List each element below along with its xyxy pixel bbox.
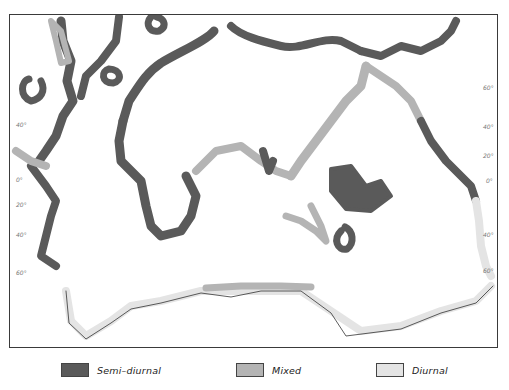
tide-map (10, 15, 498, 348)
legend-item-mixed: Mixed (236, 362, 301, 378)
coast-antarctica (66, 286, 491, 336)
left-axis-label: 60° (16, 270, 27, 276)
coast-australia (286, 206, 326, 241)
right-axis-label: 60° (483, 85, 494, 91)
new-zealand (337, 227, 352, 249)
right-axis-label: 40° (483, 124, 494, 130)
mixed-swatch (236, 363, 264, 377)
coast-east-asia (291, 66, 366, 176)
legend-label: Semi–diurnal (97, 365, 161, 376)
legend-label: Mixed (272, 365, 301, 376)
coast-south-america-east (31, 166, 56, 266)
left-axis-label: 40° (16, 122, 27, 128)
coast-siberia (361, 21, 456, 56)
antarctica-mixed (206, 286, 311, 288)
right-axis-label: 20° (483, 153, 494, 159)
left-axis-label: 0° (16, 177, 23, 183)
coast-europe-north (123, 31, 214, 121)
coast-america-west (421, 121, 476, 201)
coast-pacific-north (366, 66, 421, 121)
legend: Semi–diurnal Mixed Diurnal (0, 362, 509, 380)
india-semi (263, 151, 273, 171)
legend-label: Diurnal (412, 365, 448, 376)
left-axis-label: 20° (16, 202, 27, 208)
svalbard (148, 17, 164, 31)
coast-south-america-west (476, 201, 491, 276)
left-axis-label: 40° (16, 232, 27, 238)
right-axis-label: 40° (483, 232, 494, 238)
diurnal-swatch (376, 363, 404, 377)
coast-africa (119, 121, 196, 236)
right-axis-label: 60° (483, 268, 494, 274)
right-axis-label: 0° (486, 178, 493, 184)
legend-item-semi-diurnal: Semi–diurnal (61, 362, 161, 378)
coast-arctic-russia (231, 26, 361, 51)
legend-item-diurnal: Diurnal (376, 362, 448, 378)
map-frame (9, 14, 498, 348)
coast-hudson-bay (23, 79, 43, 101)
semi-diurnal-swatch (61, 363, 89, 377)
iceland (103, 69, 119, 83)
pacific-islands (331, 166, 391, 211)
